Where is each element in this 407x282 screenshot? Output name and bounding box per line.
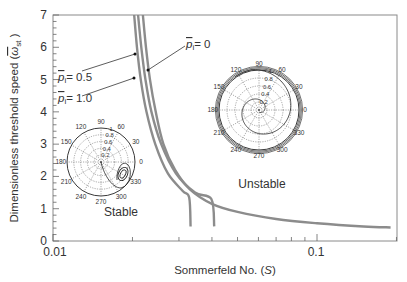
svg-text:30: 30 — [295, 83, 303, 90]
svg-text:0.4: 0.4 — [261, 91, 270, 97]
svg-text:210: 210 — [61, 178, 72, 185]
y-tick-1: 1 — [40, 202, 47, 216]
y-tick-4: 4 — [40, 105, 47, 119]
svg-text:0: 0 — [139, 158, 143, 165]
x-tick-0.1: 0.1 — [308, 245, 325, 259]
y-tick-labels: 0 1 2 3 4 5 6 7 — [40, 8, 47, 248]
svg-text:90: 90 — [255, 60, 263, 67]
curve-series-1 — [134, 15, 190, 226]
svg-text:30: 30 — [132, 138, 140, 145]
unstable-label: Unstable — [238, 177, 286, 191]
svg-text:pi= 1.0: pi= 1.0 — [57, 92, 92, 106]
svg-text:90: 90 — [97, 118, 105, 125]
y-tick-7: 7 — [40, 8, 47, 22]
svg-text:pi= 0.5: pi= 0.5 — [57, 71, 92, 85]
svg-text:0.8: 0.8 — [106, 132, 114, 138]
svg-text:0.6: 0.6 — [263, 84, 271, 90]
unstable-polar-inset: 03060901201501802102402703003300.20.40.6… — [207, 60, 307, 159]
y-axis-label: Dimensionless threshold speed (ωst ) — [8, 33, 23, 222]
svg-text:240: 240 — [75, 193, 86, 200]
svg-text:300: 300 — [116, 193, 127, 200]
annotation-p05: pi= 0.5 — [57, 53, 137, 86]
stable-polar-inset: 03060901201501802102402703003300.20.40.6… — [55, 118, 143, 205]
svg-text:330: 330 — [130, 178, 141, 185]
svg-text:0.8: 0.8 — [265, 76, 273, 82]
x-axis-ticks — [53, 234, 396, 241]
x-tick-0.01: 0.01 — [43, 245, 67, 259]
svg-text:60: 60 — [278, 66, 286, 73]
svg-text:120: 120 — [75, 123, 86, 130]
svg-text:0.2: 0.2 — [101, 152, 109, 158]
threshold-speed-chart: 0 1 2 3 4 5 6 7 0.01 0.1 Sommerfeld No. … — [0, 0, 407, 282]
svg-text:0.6: 0.6 — [104, 139, 112, 145]
svg-text:60: 60 — [117, 123, 125, 130]
x-axis-label: Sommerfeld No. (S) — [174, 264, 276, 276]
y-tick-2: 2 — [40, 169, 47, 183]
svg-text:0: 0 — [303, 106, 307, 113]
y-tick-3: 3 — [40, 137, 47, 151]
svg-text:pi= 0: pi= 0 — [185, 38, 211, 52]
svg-text:300: 300 — [277, 146, 288, 153]
annotation-p0: pi= 0 — [147, 38, 211, 72]
svg-text:330: 330 — [294, 129, 305, 136]
svg-text:180: 180 — [55, 158, 66, 165]
stable-label: Stable — [104, 205, 138, 219]
y-axis-ticks — [53, 15, 59, 241]
y-tick-5: 5 — [40, 73, 47, 87]
svg-text:1: 1 — [109, 126, 112, 132]
svg-text:0.4: 0.4 — [103, 146, 112, 152]
y-tick-6: 6 — [40, 40, 47, 54]
svg-text:150: 150 — [61, 138, 72, 145]
